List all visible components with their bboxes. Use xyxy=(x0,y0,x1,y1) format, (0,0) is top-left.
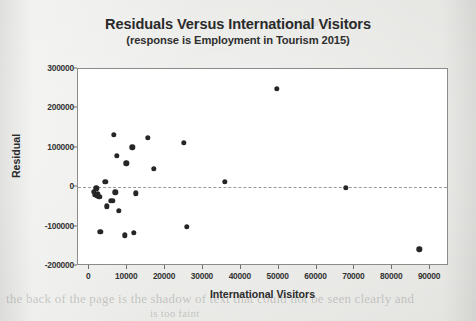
data-point xyxy=(116,208,121,213)
x-axis-tick-label: 20000 xyxy=(153,271,175,281)
x-axis-tick-mark xyxy=(88,265,89,269)
y-axis-tick-label: -200000 xyxy=(45,260,74,270)
x-axis-tick-label: 90000 xyxy=(418,271,440,281)
x-axis-tick-label: 50000 xyxy=(266,271,288,281)
x-axis-tick-mark xyxy=(278,265,279,269)
x-axis-tick-mark xyxy=(353,265,354,269)
data-point xyxy=(145,135,150,140)
data-point xyxy=(98,229,103,234)
x-axis-tick-mark xyxy=(126,265,127,269)
data-point xyxy=(96,194,101,199)
x-axis-tick-label: 0 xyxy=(86,271,90,281)
x-axis-tick-label: 10000 xyxy=(115,271,137,281)
data-point xyxy=(129,145,134,150)
x-axis-tick-mark xyxy=(316,265,317,269)
y-axis-title: Residual xyxy=(10,116,22,196)
data-point xyxy=(131,230,136,235)
bleed-through-text-line2: is too faint xyxy=(150,307,199,319)
data-point xyxy=(417,247,422,252)
x-axis-tick-mark xyxy=(429,265,430,269)
data-point xyxy=(151,166,156,171)
data-point xyxy=(343,185,348,190)
x-axis-tick-mark xyxy=(164,265,165,269)
x-axis-tick-label: 80000 xyxy=(380,271,402,281)
x-axis-tick-mark xyxy=(240,265,241,269)
chart-subtitle: (response is Employment in Tourism 2015) xyxy=(0,34,476,46)
plot-inner xyxy=(78,69,447,264)
data-point xyxy=(104,203,109,208)
scanned-page: the back of the page is the shadow of te… xyxy=(0,0,476,321)
data-point xyxy=(184,224,189,229)
data-point xyxy=(114,153,119,158)
y-axis-tick-label: 0 xyxy=(70,181,74,191)
x-axis-tick-mark xyxy=(391,265,392,269)
x-axis-tick-label: 60000 xyxy=(304,271,326,281)
data-point xyxy=(274,86,279,91)
data-point xyxy=(113,190,118,195)
data-point xyxy=(181,140,186,145)
zero-reference-line xyxy=(78,187,447,188)
x-axis-tick-label: 70000 xyxy=(342,271,364,281)
data-point xyxy=(133,190,138,195)
data-point xyxy=(122,233,127,238)
y-axis-tick-label: 200000 xyxy=(47,102,74,112)
data-point xyxy=(124,160,129,165)
x-axis-tick-label: 30000 xyxy=(191,271,213,281)
x-axis-title: International Visitors xyxy=(77,288,448,300)
data-point xyxy=(110,198,115,203)
plot-area xyxy=(77,68,448,265)
x-axis-labels: 0100002000030000400005000060000700008000… xyxy=(77,265,448,287)
x-axis-tick-mark xyxy=(202,265,203,269)
chart-title: Residuals Versus International Visitors xyxy=(0,16,476,32)
data-point xyxy=(222,179,227,184)
y-axis-tick-label: 100000 xyxy=(47,142,74,152)
data-point xyxy=(103,179,108,184)
x-axis-tick-label: 40000 xyxy=(229,271,251,281)
y-axis-tick-label: 300000 xyxy=(47,63,74,73)
y-axis-tick-label: -100000 xyxy=(45,221,74,231)
data-point xyxy=(111,132,116,137)
